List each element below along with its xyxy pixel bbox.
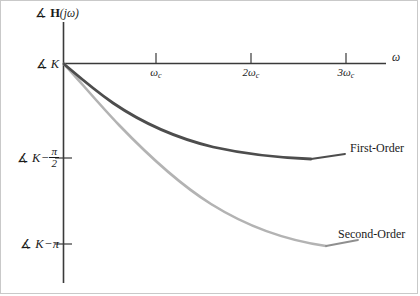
half-pi-fraction: π2 — [49, 146, 59, 169]
y-axis-title-arg: (jω) — [60, 7, 79, 19]
curve-second-order — [64, 64, 326, 246]
x-tick-wc-sub: c — [158, 71, 162, 80]
y-tick-k-symbol: K — [35, 237, 43, 251]
fraction-denominator: 2 — [49, 157, 59, 169]
x-axis-label: ω — [392, 51, 400, 63]
x-tick-3wc-base: 3ω — [338, 66, 351, 78]
phase-response-chart: ∡ H(jω) ∡ K ∡ K−π2 ∡ K−π ωc 2ωc 3ωc ω Fi… — [0, 0, 418, 294]
curve-label-second-order: Second-Order — [338, 227, 405, 242]
x-tick-2wc-base: 2ω — [243, 66, 256, 78]
x-tick-label-2wc: 2ωc — [243, 66, 260, 80]
x-tick-label-wc: ωc — [150, 66, 161, 80]
curve-label-first-order: First-Order — [350, 141, 404, 156]
leader-first-order — [311, 154, 345, 159]
x-tick-label-3wc: 3ωc — [338, 66, 355, 80]
pi-symbol: π — [53, 237, 59, 251]
curve-first-order — [64, 64, 311, 159]
y-tick-label-k-minus-half-pi: ∡ K−π2 — [17, 147, 59, 170]
y-axis-title-h: H — [50, 6, 60, 20]
fraction-numerator: π — [49, 146, 59, 157]
angle-icon: ∡ — [36, 56, 48, 71]
minus-sign: − — [44, 237, 53, 251]
y-tick-label-k-minus-pi: ∡ K−π — [20, 236, 59, 252]
minus-sign: − — [40, 151, 49, 165]
angle-icon: ∡ — [35, 5, 47, 20]
y-axis-title: ∡ H(jω) — [35, 5, 79, 21]
y-tick-label-k-text: K — [51, 57, 59, 71]
x-tick-2wc-sub: c — [256, 71, 260, 80]
angle-icon: ∡ — [20, 236, 32, 251]
y-tick-label-k: ∡ K — [36, 56, 59, 72]
angle-icon: ∡ — [17, 150, 29, 165]
x-tick-wc-base: ω — [150, 66, 158, 78]
x-tick-3wc-sub: c — [351, 71, 355, 80]
